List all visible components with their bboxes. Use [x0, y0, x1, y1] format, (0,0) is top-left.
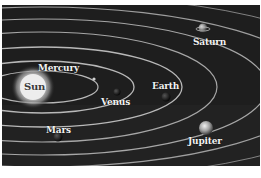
solar-system-diagram: Sun Mercury Venus Earth Mars Jupiter Sat…	[2, 5, 260, 166]
label-mercury: Mercury	[38, 63, 79, 73]
label-jupiter: Jupiter	[188, 136, 222, 146]
label-venus: Venus	[101, 97, 130, 107]
planet-jupiter	[199, 121, 213, 135]
label-sun: Sun	[24, 82, 45, 92]
label-earth: Earth	[152, 81, 179, 91]
planet-earth	[162, 93, 171, 102]
label-saturn: Saturn	[193, 37, 226, 47]
planet-venus	[114, 89, 121, 96]
planet-mercury	[92, 77, 95, 80]
label-mars: Mars	[46, 125, 71, 135]
